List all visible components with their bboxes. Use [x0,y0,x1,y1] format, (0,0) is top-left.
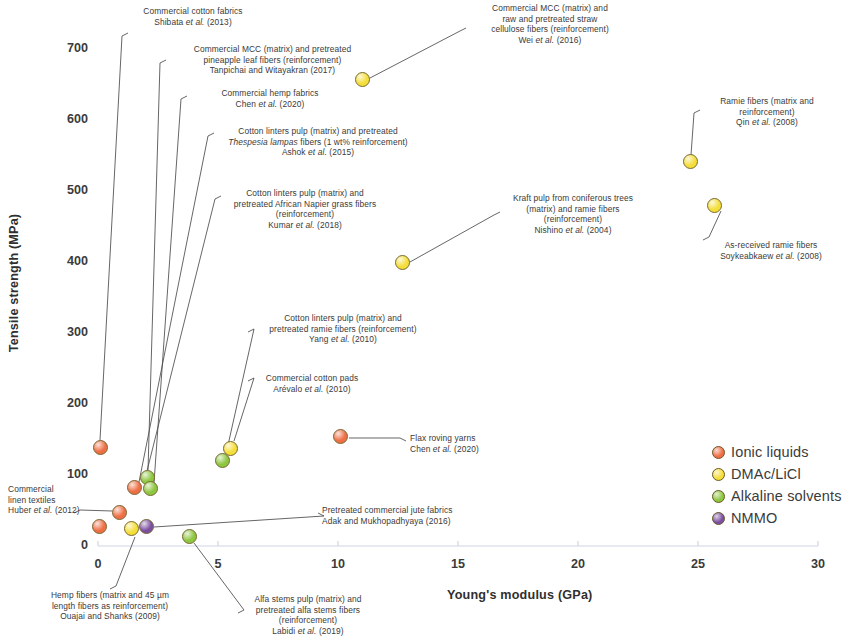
annotation-line: Commercial [8,484,54,494]
annotation-line: As-received ramie fibers [725,240,818,250]
annotation-labidi-2019: Alfa stems pulp (matrix) andpretreated a… [240,594,376,636]
annotation-ouajai-shanks-2009: Hemp fibers (matrix and 45 µmlength fibe… [30,590,190,622]
annotation-line: Commercial MCC (matrix) and [492,3,608,13]
data-point-ashok-2015[interactable] [127,480,142,495]
annotation-line: Commercial MCC (matrix) and pretreated [194,44,351,54]
data-point-ouajai-shanks-2009[interactable] [92,519,107,534]
annotation-qin-2008: Ramie fibers (matrix andreinforcement)Qi… [702,96,832,128]
annotation-yang-2010: Cotton linters pulp (matrix) andpretreat… [252,313,434,345]
annotation-line: reinforcement) [739,107,794,117]
annotation-line: Cotton linters pulp (matrix) and [246,188,364,198]
y-tick-0: 0 [44,538,88,552]
legend: Ionic liquids DMAc/LiCl Alkaline solvent… [712,441,842,529]
annotation-line: raw and pretreated straw [502,14,597,24]
annotation-line: Qin et al. (2008) [736,117,798,127]
data-point-shibata-2013[interactable] [93,440,108,455]
legend-item-nmmo[interactable]: NMMO [712,507,842,529]
legend-dot-dmac-licl [712,468,725,481]
annotation-line: Cotton linters pulp (matrix) and [284,313,402,323]
annotation-line: Nishino et al. (2004) [534,225,611,235]
x-tick-30: 30 [798,557,838,571]
annotation-line: Ouajai and Shanks (2009) [60,611,160,621]
x-axis-ticks [98,541,818,546]
annotation-line: Cotton linters pulp (matrix) and pretrea… [238,126,397,136]
annotation-line: Commercial cotton pads [266,373,359,383]
annotation-line: Commercial cotton fabrics [143,6,242,16]
y-tick-200: 200 [44,396,88,410]
data-point-soykeabkaew-2008[interactable] [707,198,722,213]
chart-figure: 700 600 500 400 300 200 100 0 0 5 10 15 … [0,0,842,642]
data-point-nishino-2004[interactable] [395,255,410,270]
y-tick-400: 400 [44,254,88,268]
legend-label-nmmo: NMMO [731,510,778,526]
annotation-line: Soykeabkaew et al. (2008) [720,251,822,261]
x-tick-20: 20 [558,557,598,571]
annotation-line: length fibers as reinforcement) [52,601,168,611]
annotation-line: (matrix) and ramie fibers [526,204,619,214]
annotation-line: Alfa stems pulp (matrix) and [254,594,361,604]
data-point-nmmo-origin[interactable] [139,519,154,534]
y-axis-title: Tensile strength (MPa) [7,183,21,383]
x-tick-0: 0 [78,557,118,571]
legend-item-alkaline-solvents[interactable]: Alkaline solvents [712,485,842,507]
annotation-line: Adak and Mukhopadhyaya (2016) [322,516,451,526]
y-tick-700: 700 [44,41,88,55]
annotation-wei-2016: Commercial MCC (matrix) andraw and pretr… [470,3,630,45]
annotation-chen-2020-flax: Flax roving yarnsChen et al. (2020) [410,433,540,454]
annotation-line: Flax roving yarns [410,433,475,443]
annotation-line: linen textiles [8,495,56,505]
annotation-line: Kraft pulp from coniferous trees [513,193,633,203]
annotation-line: Yang et al. (2010) [309,334,377,344]
data-point-chen-2020-flax[interactable] [333,429,348,444]
annotation-chen-2020-hemp: Commercial hemp fabricsChen et al. (2020… [200,88,340,109]
legend-label-alkaline-solvents: Alkaline solvents [731,488,842,504]
annotation-shibata-2013: Commercial cotton fabricsShibata et al. … [130,6,256,27]
annotation-kumar-2018: Cotton linters pulp (matrix) andpretreat… [220,188,390,230]
annotation-line: Ashok et al. (2015) [282,147,354,157]
y-tick-300: 300 [44,325,88,339]
legend-item-ionic-liquids[interactable]: Ionic liquids [712,441,842,463]
annotation-line: Ramie fibers (matrix and [720,96,814,106]
annotation-ashok-2015: Cotton linters pulp (matrix) and pretrea… [214,126,422,158]
annotation-line: (reinforcement) [544,214,602,224]
annotation-line: Tanpichai and Witayakran (2017) [210,65,336,75]
annotation-line: pretreated alfa stems fibers [256,605,360,615]
annotation-nishino-2004: Kraft pulp from coniferous trees(matrix)… [502,193,644,235]
legend-dot-alkaline-solvents [712,490,725,503]
legend-item-dmac-licl[interactable]: DMAc/LiCl [712,463,842,485]
annotation-line: Huber et al. (2012) [8,505,80,515]
annotation-line: cellulose fibers (reinforcement) [491,24,609,34]
annotation-line: pretreated African Napier grass fibers [234,199,377,209]
annotation-line: Arévalo et al. (2010) [273,384,351,394]
annotation-line: Pretreated commercial jute fabrics [322,505,452,515]
y-tick-100: 100 [44,467,88,481]
x-axis-title: Young's modulus (GPa) [447,588,593,602]
annotation-line: (reinforcement) [276,209,334,219]
x-tick-15: 15 [438,557,478,571]
annotation-line: Hemp fibers (matrix and 45 µm [51,590,169,600]
legend-dot-ionic-liquids [712,446,725,459]
y-tick-500: 500 [44,183,88,197]
x-tick-25: 25 [678,557,718,571]
annotation-line: Kumar et al. (2018) [268,220,342,230]
legend-label-dmac-licl: DMAc/LiCl [731,466,801,482]
annotation-adak-2016: Pretreated commercial jute fabricsAdak a… [322,505,502,526]
annotation-arevalo-2010: Commercial cotton padsArévalo et al. (20… [252,373,372,394]
annotation-huber-2012: Commerciallinen textilesHuber et al. (20… [8,484,92,516]
x-tick-5: 5 [198,557,238,571]
annotation-tanpichai-2017: Commercial MCC (matrix) and pretreatedpi… [170,44,375,76]
annotation-line: Labidi et al. (2019) [272,626,343,636]
annotation-line: Commercial hemp fabrics [221,88,318,98]
annotation-line: pineapple leaf fibers (reinforcement) [204,55,342,65]
annotation-line: pretreated ramie fibers (reinforcement) [269,324,416,334]
annotation-line: Chen et al. (2020) [410,444,479,454]
legend-dot-nmmo [712,512,725,525]
y-tick-600: 600 [44,112,88,126]
x-tick-10: 10 [318,557,358,571]
annotation-line: Wei et al. (2016) [518,35,581,45]
annotation-line: Thespesia lampas fibers (1 wt% reinforce… [228,137,408,147]
annotation-line: (reinforcement) [279,615,337,625]
annotation-line: Chen et al. (2020) [236,99,305,109]
data-point-labidi-2019[interactable] [182,529,197,544]
annotation-line: Shibata et al. (2013) [154,17,232,27]
